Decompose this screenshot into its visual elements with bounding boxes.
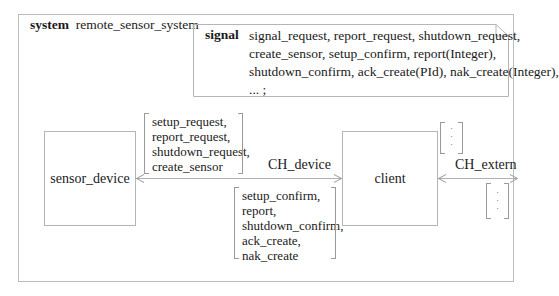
block-label: sensor_device: [50, 171, 129, 187]
channel-label-ch-device: CH_device: [268, 157, 331, 173]
signal-item: setup_request,: [152, 114, 243, 129]
signal-item: shutdown_confirm,: [242, 218, 336, 233]
signal-list-to-sensor: setup_request, report_request, shutdown_…: [144, 113, 243, 174]
block-sensor-device[interactable]: sensor_device: [44, 131, 136, 226]
bracket-left-icon: [234, 187, 239, 259]
bracket-right-icon: [238, 113, 243, 174]
signal-list-extern-upper: · · ·: [440, 122, 463, 154]
signal-item: shutdown_request,: [152, 144, 243, 159]
ellipsis-vertical-icon: · · ·: [486, 189, 509, 213]
signal-list-extern-lower: · · ·: [486, 183, 509, 219]
block-label: client: [374, 171, 405, 187]
signal-item: report,: [242, 203, 336, 218]
signal-item: nak_create: [242, 248, 336, 263]
bracket-left-icon: [144, 113, 149, 174]
signal-item: ack_create,: [242, 233, 336, 248]
signal-list-to-client: setup_confirm, report, shutdown_confirm,…: [234, 187, 336, 259]
signal-item: create_sensor: [152, 159, 243, 174]
channel-label-ch-extern: CH_extern: [455, 157, 516, 173]
ellipsis-vertical-icon: · · ·: [440, 125, 463, 149]
bracket-right-icon: [331, 187, 336, 259]
signal-item: setup_confirm,: [242, 188, 336, 203]
block-client[interactable]: client: [342, 131, 438, 226]
signal-item: report_request,: [152, 129, 243, 144]
